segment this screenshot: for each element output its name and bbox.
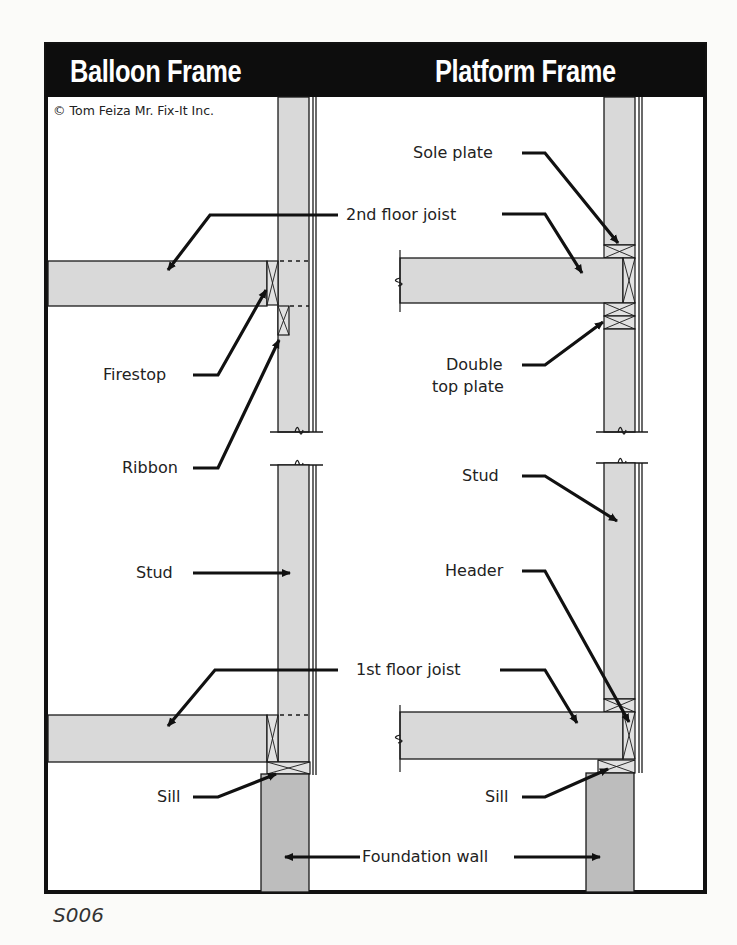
framing-diagram: Balloon Frame Platform Frame © Tom Feiza… [0, 0, 737, 945]
figure-code: S006 [53, 903, 104, 927]
label-double-top-plate-line2: top plate [432, 377, 504, 397]
label-sole-plate: Sole plate [413, 143, 493, 163]
balloon-frame-title: Balloon Frame [70, 47, 241, 97]
label-second-floor-joist: 2nd floor joist [346, 205, 456, 225]
platform-foundation-wall [586, 773, 634, 892]
balloon-first-floor-joist [48, 715, 267, 762]
label-first-floor-joist: 1st floor joist [356, 660, 460, 680]
label-ribbon: Ribbon [122, 458, 178, 478]
diagram-drawing [0, 0, 737, 945]
label-sill-platform: Sill [485, 787, 509, 807]
label-foundation-wall: Foundation wall [362, 847, 488, 867]
copyright-text: © Tom Feiza Mr. Fix-It Inc. [53, 103, 214, 118]
balloon-foundation-wall [261, 774, 309, 892]
platform-lower-stud [604, 463, 635, 699]
label-stud-platform: Stud [462, 466, 499, 486]
platform-frame-title: Platform Frame [435, 47, 616, 97]
balloon-upper-stud [278, 97, 309, 432]
balloon-second-floor-joist [48, 261, 267, 306]
label-sill-balloon: Sill [157, 787, 181, 807]
label-stud-balloon: Stud [136, 563, 173, 583]
balloon-lower-stud [278, 465, 309, 762]
label-firestop: Firestop [103, 365, 166, 385]
label-header: Header [445, 561, 503, 581]
platform-first-floor-joist [400, 712, 623, 759]
label-double-top-plate-line1: Double [446, 355, 503, 375]
platform-second-floor-joist [400, 258, 623, 303]
